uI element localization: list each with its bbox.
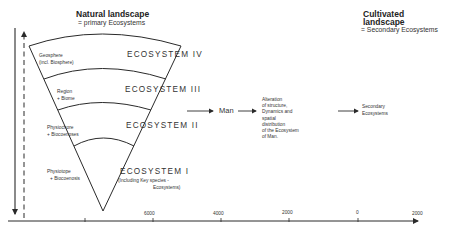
ecosystem-i-label: ECOSYSTEM I: [120, 168, 189, 177]
ecosystem-ii-label: ECOSYSTEM II: [126, 122, 199, 131]
region-label: Region: [57, 89, 72, 95]
cultivated-landscape-subtitle: = Secondary Ecosystems: [361, 26, 438, 33]
arc-ecosystem-i-top: [74, 138, 134, 146]
axis-tick-2000-bc: 2000: [282, 210, 293, 215]
secondary-ecosystems-line2: Ecosystems: [362, 111, 388, 117]
arc-ecosystem-iv-top: [29, 34, 181, 46]
physiochore-sublabel: + Biocoenoses: [47, 132, 79, 138]
ecosystem-i-note-line2: Ecosystems): [153, 185, 180, 191]
geosphere-sublabel: (incl. Biosphere): [39, 60, 74, 66]
physiochore-label: Physiochore: [47, 125, 73, 131]
ecosystem-iv-label: ECOSYSTEM IV: [127, 51, 203, 60]
natural-landscape-subtitle: = primary Ecosystems: [78, 19, 145, 26]
diagram-lines: [0, 0, 458, 234]
geosphere-label: Geosphere: [39, 53, 63, 59]
physiotope-label: Physiotope: [47, 169, 71, 175]
secondary-ecosystems-line1: Secondary: [362, 104, 385, 110]
axis-tick-0: 0: [356, 210, 359, 215]
axis-tick-4000: 4000: [213, 211, 224, 216]
ecosystem-i-note-line1: (Including Key species -: [118, 178, 169, 184]
axis-tick-2000-ad: 2000: [412, 211, 423, 216]
man-label: Man: [219, 107, 234, 115]
ecosystem-iii-label: ECOSYSTEM III: [125, 86, 201, 95]
alteration-line: of Man.: [262, 134, 299, 140]
arc-ecosystem-ii-top: [58, 103, 151, 111]
arc-ecosystem-iii-top: [44, 69, 166, 80]
alteration-text: Alteration of structure, Dynamics and sp…: [262, 97, 299, 141]
physiotope-sublabel: + Biocoenosis: [50, 176, 80, 182]
natural-landscape-title: Natural landscape: [76, 10, 149, 19]
axis-tick-6000: 6000: [144, 211, 155, 216]
region-sublabel: + Biome: [57, 96, 75, 102]
time-axis: [8, 218, 418, 222]
